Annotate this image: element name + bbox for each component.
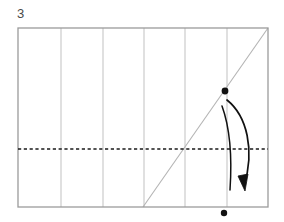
source-point <box>222 88 229 95</box>
vertical-crease-lines <box>61 28 227 207</box>
fold-diagram-canvas <box>0 0 284 222</box>
fold-arrow-inner-stroke <box>222 106 231 190</box>
origami-step-figure: 3 <box>0 0 284 222</box>
diagonal-crease-line <box>143 28 268 207</box>
target-point <box>221 210 227 216</box>
fold-arrow-head <box>238 174 248 191</box>
fold-direction-arrow <box>222 100 249 191</box>
